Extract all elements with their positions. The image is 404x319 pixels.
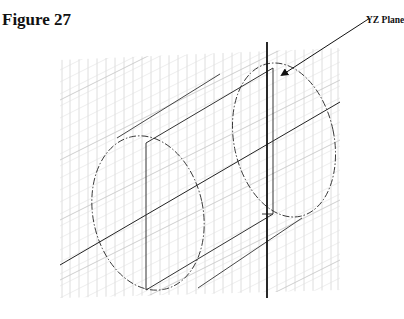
diagonal-axis-line (60, 102, 340, 265)
grid-vertical-lines (62, 40, 338, 300)
leader-arrow (282, 18, 370, 75)
background-grid (40, 0, 360, 319)
